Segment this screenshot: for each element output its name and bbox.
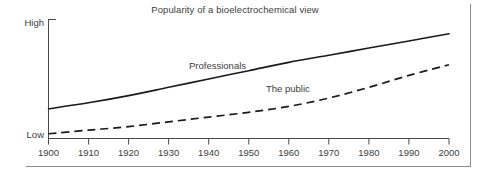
series-label-professionals: Professionals — [189, 60, 246, 71]
x-tick-label: 1980 — [349, 147, 389, 158]
series-group — [49, 34, 450, 134]
x-tick-label: 1960 — [269, 147, 309, 158]
x-tick-label: 1920 — [109, 147, 149, 158]
x-tick-label: 1940 — [189, 147, 229, 158]
chart-figure: Popularity of a bioelectrochemical view … — [0, 0, 494, 183]
x-tick-label: 1900 — [29, 147, 69, 158]
x-tick-label: 1990 — [389, 147, 429, 158]
x-tick-label: 1930 — [149, 147, 189, 158]
x-tick-marks — [49, 139, 450, 145]
x-tick-label: 2000 — [429, 147, 469, 158]
series-label-the-public: The public — [266, 83, 310, 94]
x-tick-label: 1910 — [69, 147, 109, 158]
x-tick-label: 1950 — [229, 147, 269, 158]
x-tick-label: 1970 — [309, 147, 349, 158]
series-line-professionals — [49, 34, 450, 109]
